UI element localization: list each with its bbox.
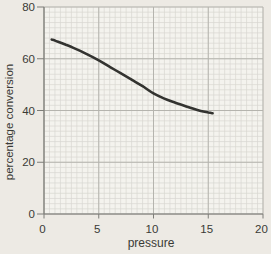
x-tick-label: 5 — [94, 223, 100, 235]
y-axis-title: percentage conversion — [3, 64, 15, 180]
x-tick-label: 15 — [200, 223, 213, 235]
y-tick-label: 20 — [22, 156, 35, 168]
x-tick-label: 0 — [39, 223, 45, 235]
y-tick-label: 0 — [29, 208, 35, 220]
y-tick-label: 60 — [22, 53, 35, 65]
chart-figure: 05101520020406080 pressure percentage co… — [0, 0, 271, 254]
x-axis-title: pressure — [128, 236, 175, 250]
y-tick-label: 80 — [22, 1, 35, 13]
x-tick-label: 20 — [255, 223, 268, 235]
y-tick-label: 40 — [22, 105, 35, 117]
conversion-pressure-chart: 05101520020406080 pressure percentage co… — [0, 0, 271, 254]
x-tick-label: 10 — [146, 223, 159, 235]
